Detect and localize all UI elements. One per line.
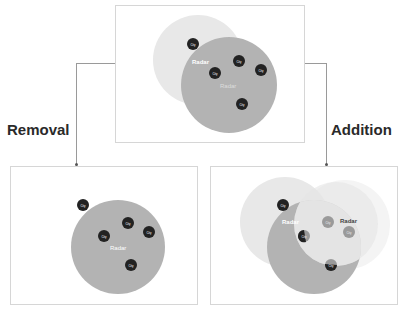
removal-panel-graphics: Radar City City City City City xyxy=(71,199,165,294)
radar-label-new: Radar xyxy=(340,218,358,224)
radar-label: Radar xyxy=(282,219,300,225)
city-node: City xyxy=(125,259,137,271)
city-node: City xyxy=(187,38,199,50)
city-node-covered: City xyxy=(322,216,334,228)
radar-label: Radar xyxy=(110,245,126,251)
city-node: City xyxy=(209,67,221,79)
top-panel-graphics: Radar Radar City City City City City xyxy=(153,15,277,133)
radar-coverage-new-outer xyxy=(294,182,378,266)
svg-text:City: City xyxy=(146,231,152,235)
svg-text:City: City xyxy=(301,235,307,239)
city-node: City xyxy=(77,199,89,211)
svg-text:City: City xyxy=(236,60,242,64)
svg-text:City: City xyxy=(80,204,86,208)
city-node: City xyxy=(255,64,267,76)
svg-text:City: City xyxy=(125,222,131,226)
city-node: City xyxy=(143,226,155,238)
radar-label: Radar xyxy=(192,59,210,65)
city-node-partial: City xyxy=(325,259,337,271)
city-node: City xyxy=(277,199,289,211)
svg-text:City: City xyxy=(328,264,334,268)
svg-text:City: City xyxy=(239,103,245,107)
city-node: City xyxy=(236,98,248,110)
svg-text:City: City xyxy=(212,72,218,76)
svg-text:City: City xyxy=(325,221,331,225)
svg-text:City: City xyxy=(190,43,196,47)
city-node: City xyxy=(98,230,110,242)
city-node: City xyxy=(233,55,245,67)
addition-panel-graphics: Radar Radar City City City City City xyxy=(240,177,390,294)
svg-text:City: City xyxy=(346,231,352,235)
city-node: City xyxy=(122,217,134,229)
diagram-canvas: Radar Radar City City City City City Rad… xyxy=(0,0,405,310)
city-node-covered: City xyxy=(343,226,355,238)
radar-label-secondary: Radar xyxy=(220,83,236,89)
svg-text:City: City xyxy=(258,69,264,73)
svg-text:City: City xyxy=(128,264,134,268)
svg-text:City: City xyxy=(280,204,286,208)
svg-text:City: City xyxy=(101,235,107,239)
